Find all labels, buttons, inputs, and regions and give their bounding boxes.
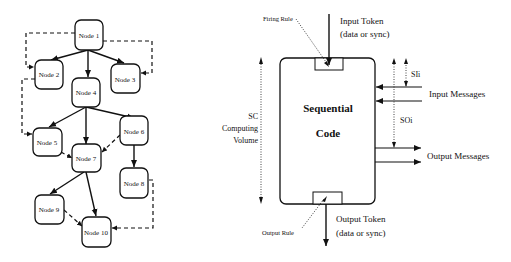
output-token-line2: (data or sync) (336, 228, 385, 238)
output-token-line1: Output Token (336, 214, 386, 224)
soi-down-arrow-icon (392, 142, 396, 148)
sli-label: SIi (411, 70, 421, 79)
svg-text:Node 10: Node 10 (84, 229, 108, 237)
edge-n7-n10 (86, 172, 96, 216)
node-7: Node 7 (72, 144, 101, 172)
edge-n1-n3 (88, 50, 124, 63)
soi-up-arrow-icon (392, 58, 396, 64)
sc-label-line1: SC (248, 112, 258, 121)
input-token-line1: Input Token (340, 16, 384, 26)
svg-text:Node 5: Node 5 (37, 139, 58, 147)
task-graph: Node 1 Node 2 Node 3 Node 4 Node 5 Node … (22, 20, 153, 247)
output-rule-label: Output Rule (262, 229, 294, 236)
sli-down-arrow-icon (404, 81, 408, 87)
svg-text:Node 8: Node 8 (124, 180, 145, 188)
svg-text:Node 7: Node 7 (76, 155, 97, 163)
diagram-canvas: Node 1 Node 2 Node 3 Node 4 Node 5 Node … (0, 0, 511, 262)
node-5: Node 5 (33, 128, 62, 156)
firing-rule-leader (296, 19, 326, 62)
node-10: Node 10 (82, 217, 111, 247)
input-token-line2: (data or sync) (340, 29, 389, 39)
sli-up-arrow-icon (404, 58, 408, 64)
svg-text:Node 2: Node 2 (39, 71, 60, 79)
firing-rule-label: Firing Rule (263, 15, 293, 22)
dashed-n5-n7 (61, 152, 72, 158)
sc-label-line2: Computing (222, 124, 258, 133)
soi-label: SOi (400, 116, 413, 125)
box-title-line2: Code (316, 127, 341, 139)
node-3: Node 3 (111, 64, 140, 93)
output-rule-box (313, 192, 342, 204)
input-messages-label: Input Messages (429, 89, 486, 99)
node-1: Node 1 (75, 20, 103, 50)
sc-label-line3: Volume (233, 136, 258, 145)
svg-text:Node 4: Node 4 (76, 89, 97, 97)
node-6: Node 6 (120, 116, 148, 145)
svg-text:Node 1: Node 1 (79, 32, 100, 40)
dashed-n9-n10 (64, 210, 82, 226)
svg-text:Node 3: Node 3 (115, 76, 136, 84)
sc-down-arrow-icon (259, 197, 263, 204)
edge-n7-n9 (50, 172, 84, 194)
svg-text:Node 9: Node 9 (39, 206, 60, 214)
sc-up-arrow-icon (259, 57, 263, 64)
sequential-code-block: Sequential Code Firing Rule Input Token … (222, 14, 490, 246)
edge-n1-n2 (51, 50, 88, 60)
output-messages-label: Output Messages (427, 151, 490, 161)
node-4: Node 4 (72, 78, 100, 107)
dashed-n2-n5 (22, 79, 35, 134)
svg-text:Node 6: Node 6 (124, 128, 145, 136)
node-9: Node 9 (35, 195, 64, 224)
node-8: Node 8 (120, 168, 148, 198)
node-2: Node 2 (35, 60, 63, 89)
edge-n4-n5 (49, 107, 86, 127)
dashed-n6-n7 (102, 135, 120, 152)
box-title-line1: Sequential (303, 102, 353, 114)
